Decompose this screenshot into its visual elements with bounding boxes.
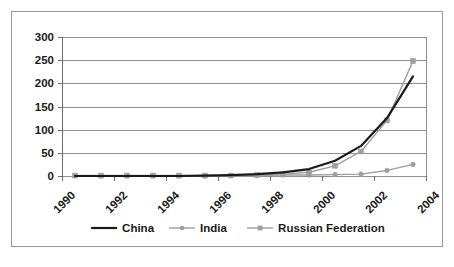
x-tick-label-1996: 1996 bbox=[207, 189, 234, 216]
series-line-russian-federation bbox=[75, 61, 413, 175]
y-tick-label-50: 50 bbox=[41, 147, 54, 159]
series-china bbox=[75, 76, 413, 176]
data-point-india-2003 bbox=[411, 162, 416, 167]
legend-label-india: India bbox=[200, 222, 227, 234]
y-tick-label-300: 300 bbox=[35, 31, 54, 43]
series-line-china bbox=[75, 76, 413, 176]
y-tick-label-100: 100 bbox=[35, 124, 54, 136]
legend-label-china: China bbox=[122, 222, 155, 234]
data-point-russian-federation-1999 bbox=[307, 170, 312, 175]
y-tick-label-150: 150 bbox=[35, 101, 54, 113]
data-point-russian-federation-2001 bbox=[359, 149, 364, 154]
x-tick-label-1992: 1992 bbox=[103, 189, 130, 216]
data-point-india-2000 bbox=[333, 172, 338, 177]
y-tick-label-0: 0 bbox=[48, 170, 54, 182]
x-tick-label-2004: 2004 bbox=[415, 189, 442, 216]
data-series-group bbox=[73, 59, 416, 179]
x-axis-tick-labels: 19901992199419961998200020022004 bbox=[51, 189, 442, 216]
y-tick-label-250: 250 bbox=[35, 54, 54, 66]
legend-item-india[interactable]: India bbox=[169, 222, 227, 234]
line-chart-svg: 050100150200250300 199019921994199619982… bbox=[12, 12, 444, 248]
x-tick-label-1994: 1994 bbox=[155, 189, 182, 216]
plot-area-wrapper: 050100150200250300 199019921994199619982… bbox=[12, 12, 444, 248]
x-tick-label-1998: 1998 bbox=[259, 189, 286, 216]
x-tick-label-1990: 1990 bbox=[51, 189, 78, 216]
x-tick-label-2002: 2002 bbox=[363, 189, 390, 216]
legend-item-russian-federation[interactable]: Russian Federation bbox=[247, 222, 385, 234]
chart-legend: ChinaIndiaRussian Federation bbox=[91, 222, 385, 234]
data-point-india-2002 bbox=[385, 168, 390, 173]
x-tick-label-2000: 2000 bbox=[311, 189, 338, 216]
gridlines-group bbox=[62, 38, 426, 177]
series-russian-federation bbox=[73, 59, 416, 178]
legend-item-china[interactable]: China bbox=[91, 222, 155, 234]
plot-border bbox=[63, 37, 427, 180]
y-axis-tick-labels: 050100150200250300 bbox=[35, 31, 62, 182]
chart-frame: 050100150200250300 199019921994199619982… bbox=[11, 11, 443, 247]
data-point-india-2001 bbox=[359, 172, 364, 177]
y-tick-label-200: 200 bbox=[35, 77, 54, 89]
data-point-russian-federation-2003 bbox=[411, 59, 416, 64]
data-point-russian-federation-2000 bbox=[333, 163, 338, 168]
chart-figure: 050100150200250300 199019921994199619982… bbox=[0, 0, 454, 267]
legend-label-russian-federation: Russian Federation bbox=[278, 222, 385, 234]
legend-marker-india bbox=[180, 226, 185, 231]
legend-marker-russian-federation bbox=[258, 226, 263, 231]
